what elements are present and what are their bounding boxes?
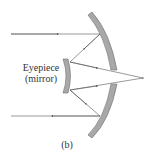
figure-label: (b) [52, 139, 82, 150]
ray-primary-to-secondary-bottom-arrow [70, 90, 86, 104]
eyepiece-label-text: Eyepiece [18, 62, 64, 73]
ray-to-focus-bottom-arrow [70, 86, 97, 90]
ray-to-focus-top-arrow [70, 62, 97, 68]
converging-rays [70, 62, 143, 90]
eyepiece-label-note: (mirror) [18, 73, 64, 84]
reflected-rays [70, 34, 100, 116]
eyepiece-label: Eyepiece (mirror) [18, 62, 64, 84]
secondary-mirror [63, 59, 71, 93]
primary-mirror-lower [88, 84, 117, 138]
focus-point [142, 77, 143, 78]
ray-primary-to-secondary-top-arrow [84, 34, 100, 49]
